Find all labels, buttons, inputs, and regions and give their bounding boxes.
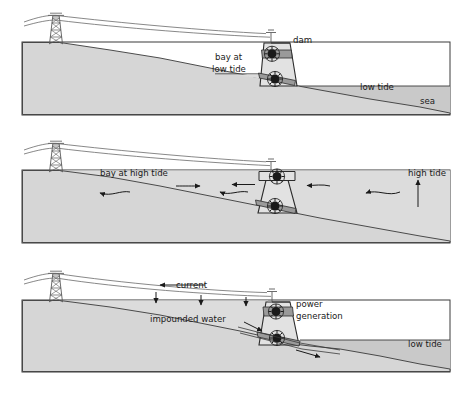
turbine-lower bbox=[267, 198, 282, 213]
power-generation-label: power bbox=[296, 299, 323, 309]
turbine-upper bbox=[269, 169, 284, 184]
turbine-upper bbox=[264, 46, 279, 61]
bay-at-low-tide-label: bay at bbox=[215, 52, 243, 62]
sea-label: sea bbox=[420, 96, 435, 106]
low-tide-label-3: low tide bbox=[408, 339, 442, 349]
current-label: current bbox=[176, 280, 208, 290]
turbine-upper bbox=[268, 304, 283, 319]
bay-at-low-tide-label-line2: low tide bbox=[212, 64, 246, 74]
impounded-water-label: impounded water bbox=[150, 314, 226, 324]
tidal-power-diagram: dam bay at low tide low tide sea bbox=[0, 0, 472, 400]
power-generation-label-line2: generation bbox=[296, 311, 343, 321]
high-tide-label: high tide bbox=[408, 168, 446, 178]
bay-at-high-tide-label: bay at high tide bbox=[100, 168, 168, 178]
turbine-lower bbox=[267, 71, 282, 86]
dam-label: dam bbox=[293, 35, 312, 45]
turbine-lower bbox=[269, 330, 284, 345]
low-tide-label: low tide bbox=[360, 82, 394, 92]
